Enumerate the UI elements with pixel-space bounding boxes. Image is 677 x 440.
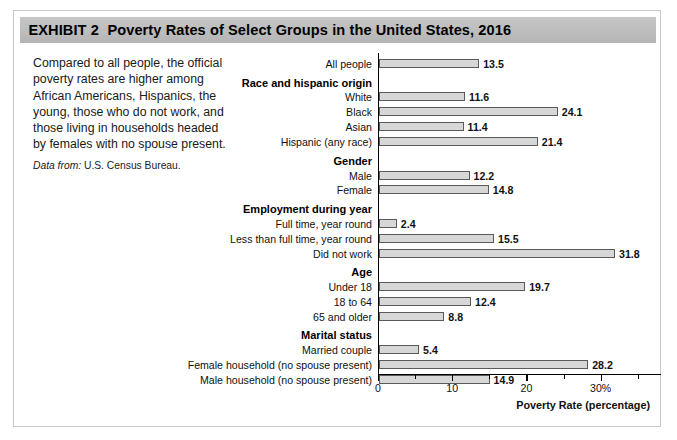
chart-bar-value-label: 21.4 xyxy=(542,134,563,150)
x-axis-major-tick xyxy=(601,375,602,381)
chart-bar xyxy=(379,297,471,306)
chart-group-header-label: Employment during year xyxy=(14,201,372,217)
chart-row-label: Male xyxy=(14,168,372,184)
chart-bar xyxy=(379,92,465,101)
chart-bar xyxy=(379,107,558,116)
chart-bar-value-label: 12.2 xyxy=(474,168,495,184)
chart-bar-value-label: 5.4 xyxy=(423,342,438,358)
x-axis-minor-tick xyxy=(564,375,565,379)
chart-group-header-label: Race and hispanic origin xyxy=(14,75,372,91)
x-axis-tick-label: 10 xyxy=(446,382,458,394)
chart-row-label: Hispanic (any race) xyxy=(14,134,372,150)
chart-bar-value-label: 12.4 xyxy=(475,294,496,310)
x-axis-major-tick xyxy=(378,375,379,381)
x-axis-major-tick xyxy=(526,375,527,381)
x-axis-title: Poverty Rate (percentage) xyxy=(516,399,650,411)
chart-row-label: Under 18 xyxy=(14,279,372,295)
x-axis-minor-tick xyxy=(489,375,490,379)
chart-bar-value-label: 28.2 xyxy=(592,357,613,373)
chart-bar-value-label: 2.4 xyxy=(401,216,416,232)
x-axis-minor-tick xyxy=(415,375,416,379)
chart-bar-value-label: 8.8 xyxy=(448,309,463,325)
chart-bar-value-label: 14.9 xyxy=(494,372,515,388)
chart-bar xyxy=(379,312,444,321)
chart-bar xyxy=(379,59,479,68)
chart-bar-value-label: 15.5 xyxy=(498,231,519,247)
chart-row-label: Did not work xyxy=(14,246,372,262)
chart-row-label: Female xyxy=(14,182,372,198)
chart-group-header-label: Marital status xyxy=(14,327,372,343)
chart-row-label: Female household (no spouse present) xyxy=(14,357,372,373)
chart-bar xyxy=(379,171,470,180)
chart-bar-value-label: 24.1 xyxy=(562,104,583,120)
chart-bar xyxy=(379,234,494,243)
chart-bar-value-label: 11.6 xyxy=(469,89,489,105)
chart-row-label: Asian xyxy=(14,119,372,135)
chart-group-header-label: Age xyxy=(14,264,372,280)
x-axis-major-tick xyxy=(452,375,453,381)
exhibit-figure: EXHIBIT 2Poverty Rates of Select Groups … xyxy=(13,10,661,427)
chart-row-label: 18 to 64 xyxy=(14,294,372,310)
chart-row-label: All people xyxy=(14,56,372,72)
chart-row-label: Less than full time, year round xyxy=(14,231,372,247)
chart-row-label: Black xyxy=(14,104,372,120)
chart-bar xyxy=(379,249,615,258)
chart-row-label: Male household (no spouse present) xyxy=(14,372,372,388)
x-axis-tick-label: 30% xyxy=(590,382,611,394)
chart-bar xyxy=(379,375,490,384)
chart-bar xyxy=(379,282,525,291)
chart-bar xyxy=(379,122,464,131)
chart-row-label: Full time, year round xyxy=(14,216,372,232)
chart-row-label: White xyxy=(14,89,372,105)
chart-bar xyxy=(379,219,397,228)
chart-bar xyxy=(379,360,588,369)
chart-row-label: Married couple xyxy=(14,342,372,358)
chart-bar-value-label: 14.8 xyxy=(493,182,514,198)
x-axis-minor-tick xyxy=(638,375,639,379)
chart-bar-value-label: 13.5 xyxy=(483,56,504,72)
chart-bar xyxy=(379,185,489,194)
chart-bar-value-label: 31.8 xyxy=(619,246,640,262)
chart-row-label: 65 and older xyxy=(14,309,372,325)
chart-bar xyxy=(379,137,538,146)
chart-group-header-label: Gender xyxy=(14,153,372,169)
chart-bar-value-label: 19.7 xyxy=(529,279,550,295)
x-axis-tick-label: 0 xyxy=(375,382,381,394)
poverty-rate-bar-chart: All people13.5Race and hispanic originWh… xyxy=(14,11,662,428)
x-axis-tick-label: 20 xyxy=(520,382,532,394)
chart-bar xyxy=(379,345,419,354)
chart-bar-value-label: 11.4 xyxy=(468,119,488,135)
